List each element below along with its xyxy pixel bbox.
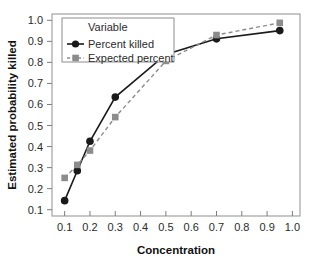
y-tick-label: 0.1: [28, 204, 43, 216]
y-tick-label: 0.2: [28, 183, 43, 195]
x-tick-label: 0.8: [234, 221, 249, 233]
chart-figure: 0.10.20.30.40.50.60.70.80.91.0 0.10.20.3…: [0, 0, 314, 266]
data-point: [112, 114, 119, 121]
y-tick-label: 1.0: [28, 14, 43, 26]
data-point: [276, 20, 283, 27]
data-point: [276, 27, 284, 35]
x-tick-label: 0.3: [108, 221, 123, 233]
y-tick-label: 0.6: [28, 98, 43, 110]
dose-response-chart: 0.10.20.30.40.50.60.70.80.91.0 0.10.20.3…: [0, 0, 314, 266]
legend-title: Variable: [88, 21, 128, 33]
legend-label-2: Expected percent: [88, 52, 174, 64]
x-tick-label: 0.9: [259, 221, 274, 233]
legend-marker-1: [72, 40, 79, 47]
data-point: [74, 162, 81, 169]
data-point: [86, 138, 94, 146]
x-tick-label: 0.2: [82, 221, 97, 233]
data-point: [213, 32, 220, 39]
y-tick-label: 0.4: [28, 141, 43, 153]
y-tick-label: 0.8: [28, 56, 43, 68]
data-point: [111, 93, 119, 101]
x-tick-label: 0.4: [133, 221, 148, 233]
x-axis-title: Concentration: [137, 244, 215, 256]
data-point: [61, 175, 68, 182]
y-tick-label: 0.3: [28, 162, 43, 174]
x-tick-label: 0.7: [209, 221, 224, 233]
y-tick-label: 0.9: [28, 35, 43, 47]
y-axis-title: Estimated probability killed: [6, 40, 18, 190]
data-point: [87, 147, 94, 154]
x-tick-label: 0.5: [158, 221, 173, 233]
y-tick-label: 0.7: [28, 77, 43, 89]
data-point: [61, 197, 69, 205]
y-tick-label: 0.5: [28, 120, 43, 132]
x-tick-label: 0.6: [184, 221, 199, 233]
legend-label-1: Percent killed: [88, 38, 154, 50]
x-tick-label: 0.1: [57, 221, 72, 233]
chart-legend: VariablePercent killedExpected percent: [62, 18, 174, 64]
x-tick-label: 1.0: [285, 221, 300, 233]
legend-marker-2: [72, 55, 79, 62]
